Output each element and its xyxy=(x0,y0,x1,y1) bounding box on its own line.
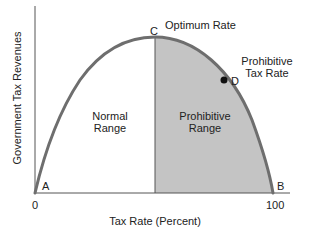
normal-range-line1: Normal xyxy=(80,110,140,122)
point-c-label: C xyxy=(150,25,158,37)
optimum-rate-label: Optimum Rate xyxy=(165,19,236,31)
x-tick-hundred: 100 xyxy=(266,199,284,211)
prohibitive-tax-rate-label: Prohibitive Tax Rate xyxy=(237,55,297,79)
y-axis-label: Government Tax Revenues xyxy=(11,23,23,173)
laffer-curve-diagram: Government Tax Revenues A 0 100 B C Opti… xyxy=(0,0,309,236)
point-a-label: A xyxy=(42,180,49,192)
normal-range-label: Normal Range xyxy=(80,110,140,134)
prohibitive-range-line1: Prohibitive xyxy=(170,110,240,122)
point-d-marker xyxy=(221,77,228,84)
point-b-label: B xyxy=(277,180,284,192)
normal-range-line2: Range xyxy=(80,122,140,134)
prohibitive-range-line2: Range xyxy=(170,122,240,134)
prohibitive-tax-rate-line1: Prohibitive xyxy=(237,55,297,67)
prohibitive-tax-rate-line2: Tax Rate xyxy=(237,67,297,79)
prohibitive-range-label: Prohibitive Range xyxy=(170,110,240,134)
x-tick-zero: 0 xyxy=(32,199,38,211)
x-axis-label: Tax Rate (Percent) xyxy=(95,215,215,227)
